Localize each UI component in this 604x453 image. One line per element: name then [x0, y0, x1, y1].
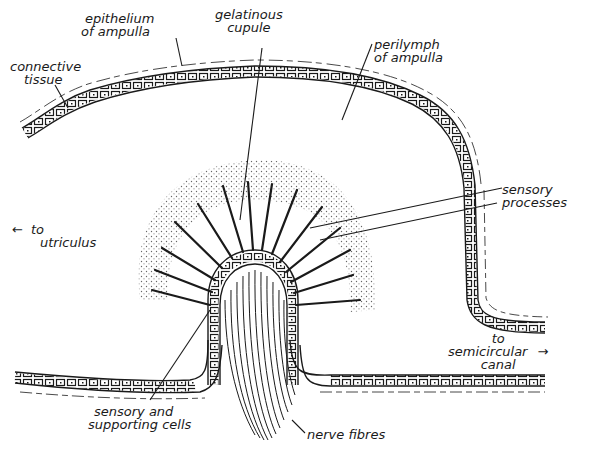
label-to-semicircular-canal: to semicircular→ canal — [448, 332, 548, 371]
label-gelatinous-cupule: gelatinous cupule — [215, 8, 283, 34]
ampulla-diagram: epithelium of ampulla connective tissue … — [0, 0, 604, 453]
label-nerve-fibres: nerve fibres — [307, 428, 385, 441]
label-epithelium-of-ampulla: epithelium of ampulla — [85, 12, 154, 38]
label-perilymph-of-ampulla: perilymph of ampulla — [374, 38, 443, 64]
right-arrow-icon: → — [537, 344, 548, 359]
label-to-utriculus: ←to utriculus — [12, 223, 96, 249]
label-sensory-and-supporting-cells: sensory and supporting cells — [88, 405, 191, 431]
label-connective-tissue: connective tissue — [10, 60, 81, 86]
crista-ampullaris — [208, 250, 298, 385]
nerve-fibres — [225, 270, 295, 440]
left-arrow-icon: ← — [12, 222, 23, 237]
label-sensory-processes: sensory processes — [502, 183, 567, 209]
